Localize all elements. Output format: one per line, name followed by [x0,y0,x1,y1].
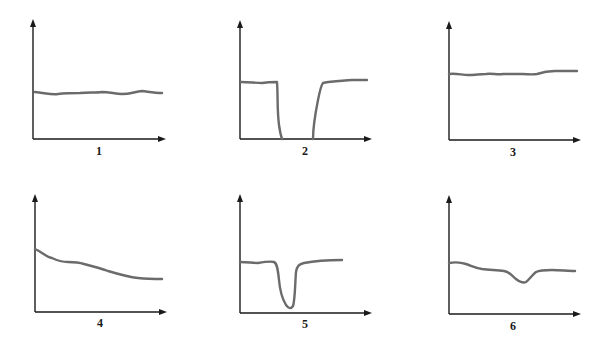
panel-4: 4 [32,194,167,330]
panel-label: 6 [510,319,516,333]
y-axis-arrow-icon [237,20,243,28]
curve [449,71,577,75]
x-axis-arrow-icon [364,136,372,142]
curve [35,249,162,279]
curve [241,80,367,139]
panel-label: 3 [510,145,516,159]
curve [35,91,162,94]
y-axis-arrow-icon [32,194,38,202]
panel-5: 5 [237,194,372,331]
panel-label: 5 [302,317,308,331]
panel-6: 6 [446,195,581,333]
x-axis-arrow-icon [158,136,166,142]
curve [240,260,342,308]
panel-label: 4 [97,316,103,330]
y-axis-arrow-icon [30,19,36,27]
panel-1: 1 [30,19,166,158]
panel-3: 3 [446,21,581,159]
y-axis-arrow-icon [446,195,452,203]
x-axis-arrow-icon [159,309,167,315]
curve [449,262,575,282]
y-axis-arrow-icon [237,194,243,202]
y-axis-arrow-icon [446,21,452,29]
x-axis-arrow-icon [364,310,372,316]
panel-2: 2 [237,20,372,158]
panel-label: 1 [96,144,102,158]
panel-label: 2 [302,144,308,158]
x-axis-arrow-icon [573,311,581,317]
figure-canvas: 1 2 3 4 5 [0,0,607,344]
x-axis-arrow-icon [573,137,581,143]
